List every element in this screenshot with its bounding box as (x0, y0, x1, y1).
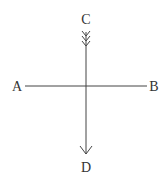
cross-diagram: C A B D (0, 0, 167, 181)
label-c: C (81, 12, 90, 27)
label-a: A (12, 79, 23, 94)
label-b: B (149, 79, 158, 94)
label-d: D (81, 160, 91, 175)
